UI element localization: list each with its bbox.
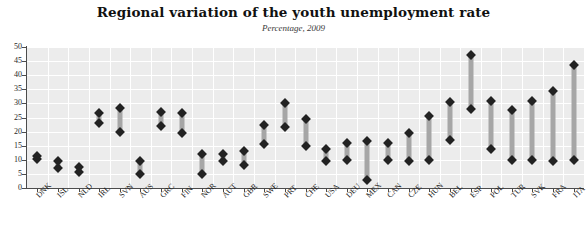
- y-axis-tick-mark: [22, 160, 26, 161]
- gridline-horizontal: [27, 89, 584, 90]
- y-axis-tick-label: 45: [2, 57, 22, 65]
- gridline-horizontal: [27, 160, 584, 161]
- y-axis-tick-label: 50: [2, 43, 22, 51]
- gridline-horizontal: [27, 103, 584, 104]
- chart-subtitle: Percentage, 2009: [0, 23, 587, 33]
- gridline-vertical: [192, 47, 193, 188]
- y-axis-tick-label: 35: [2, 85, 22, 93]
- y-axis-tick-mark: [22, 174, 26, 175]
- y-axis-tick-label: 20: [2, 128, 22, 136]
- y-axis-tick-mark: [22, 89, 26, 90]
- chart-title: Regional variation of the youth unemploy…: [0, 4, 587, 20]
- range-marker-min: [218, 156, 228, 166]
- y-axis-tick-mark: [22, 188, 26, 189]
- y-axis-tick-mark: [22, 61, 26, 62]
- gridline-vertical: [398, 47, 399, 188]
- range-marker-min: [259, 139, 269, 149]
- y-axis-tick-mark: [22, 75, 26, 76]
- y-axis-tick-mark: [22, 146, 26, 147]
- gridline-vertical: [213, 47, 214, 188]
- y-axis-line: [26, 46, 27, 189]
- gridline-vertical: [295, 47, 296, 188]
- gridline-vertical: [440, 47, 441, 188]
- gridline-horizontal: [27, 75, 584, 76]
- range-bar: [551, 91, 556, 162]
- range-bar: [427, 116, 432, 160]
- y-axis-tick-label: 25: [2, 114, 22, 122]
- range-marker-min: [424, 155, 434, 165]
- gridline-vertical: [48, 47, 49, 188]
- range-bar: [365, 141, 370, 179]
- gridline-vertical: [316, 47, 317, 188]
- range-bar: [468, 55, 473, 109]
- gridline-vertical: [130, 47, 131, 188]
- gridline-vertical: [68, 47, 69, 188]
- gridline-horizontal: [27, 61, 584, 62]
- gridline-vertical: [501, 47, 502, 188]
- gridline-vertical: [378, 47, 379, 188]
- y-axis-tick-mark: [22, 103, 26, 104]
- gridline-vertical: [254, 47, 255, 188]
- y-axis-tick-label: 30: [2, 99, 22, 107]
- gridline-horizontal: [27, 174, 584, 175]
- range-marker-min: [239, 160, 249, 170]
- range-marker-min: [156, 121, 166, 131]
- range-marker-min: [548, 156, 558, 166]
- gridline-vertical: [151, 47, 152, 188]
- gridline-vertical: [419, 47, 420, 188]
- gridline-vertical: [89, 47, 90, 188]
- y-axis-tick-mark: [22, 118, 26, 119]
- range-marker-min: [197, 169, 207, 179]
- gridline-vertical: [110, 47, 111, 188]
- gridline-vertical: [543, 47, 544, 188]
- plot-area: [27, 47, 584, 188]
- gridline-vertical: [522, 47, 523, 188]
- range-bar: [489, 101, 494, 149]
- y-axis-tick-mark: [22, 47, 26, 48]
- range-bar: [509, 110, 514, 159]
- gridline-vertical: [563, 47, 564, 188]
- y-axis-tick-label: 15: [2, 142, 22, 150]
- chart-container: Regional variation of the youth unemploy…: [0, 0, 587, 241]
- y-axis-tick-label: 5: [2, 170, 22, 178]
- range-marker-min: [94, 118, 104, 128]
- y-axis-tick-label: 0: [2, 184, 22, 192]
- range-bar: [530, 101, 535, 160]
- range-marker-min: [321, 156, 331, 166]
- gridline-vertical: [171, 47, 172, 188]
- gridline-vertical: [275, 47, 276, 188]
- y-axis-tick-mark: [22, 132, 26, 133]
- range-marker-min: [527, 155, 537, 165]
- gridline-vertical: [233, 47, 234, 188]
- y-axis-ticks: 05101520253035404550: [0, 0, 22, 241]
- gridline-vertical: [481, 47, 482, 188]
- range-marker-min: [136, 169, 146, 179]
- gridline-horizontal: [27, 47, 584, 48]
- y-axis-tick-label: 40: [2, 71, 22, 79]
- range-bar: [571, 65, 576, 159]
- gridline-vertical: [460, 47, 461, 188]
- gridline-vertical: [336, 47, 337, 188]
- gridline-vertical: [357, 47, 358, 188]
- y-axis-tick-label: 10: [2, 156, 22, 164]
